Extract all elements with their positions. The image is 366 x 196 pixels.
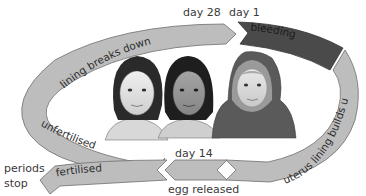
arrow-ovulation-segment bbox=[165, 160, 227, 180]
label-stop: stop bbox=[4, 177, 28, 190]
label-day-14: day 14 bbox=[175, 147, 213, 160]
label-egg-released: egg released bbox=[168, 183, 239, 196]
girl-hijab-portrait bbox=[212, 52, 296, 138]
girl-left-portrait bbox=[105, 56, 168, 140]
cycle-diagram: lining breaks down bleeding uterus linin… bbox=[0, 0, 366, 196]
girl-middle-portrait bbox=[158, 56, 220, 138]
label-day-28: day 28 bbox=[183, 6, 221, 19]
label-periods: periods bbox=[4, 162, 45, 175]
label-day-1: day 1 bbox=[229, 6, 260, 19]
